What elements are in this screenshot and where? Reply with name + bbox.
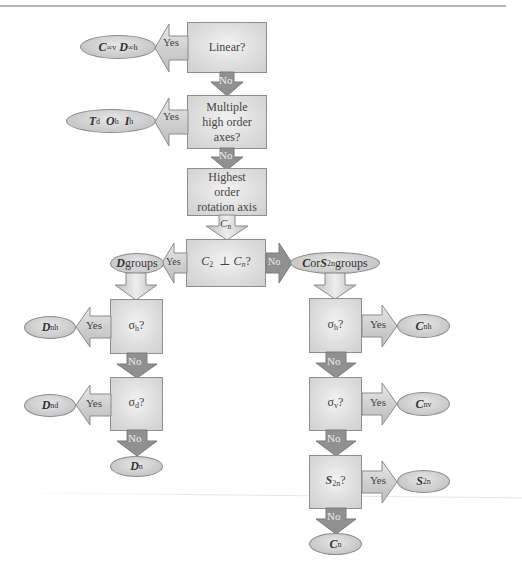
edge-label-no: No <box>268 256 280 267</box>
node-right-sigma-v: σv? <box>309 377 362 431</box>
edge-label-cn: Cn <box>220 217 231 231</box>
edge-label-yes: Yes <box>370 396 386 408</box>
arrow-cgroups-down <box>314 273 356 299</box>
edge-label-yes: Yes <box>370 474 386 486</box>
top-rule <box>0 5 506 7</box>
node-linear: Linear? <box>187 22 267 73</box>
edge-label-yes: Yes <box>86 319 102 331</box>
edge-label-no: No <box>219 149 232 161</box>
result-dnd: Dnd <box>24 394 76 417</box>
node-highest-axis: Highest order rotation axis <box>187 168 267 216</box>
node-c2-perp-cn: C2 ⊥ Cn? <box>186 239 266 287</box>
edge-label-yes: Yes <box>163 110 179 122</box>
edge-label-no: No <box>128 432 141 444</box>
result-d-groups: D groups <box>110 253 164 274</box>
node-left-sigma-d: σd? <box>110 377 163 431</box>
result-dn: Dn <box>110 456 163 477</box>
node-linear-label: Linear? <box>209 40 246 55</box>
node-right-sigma-h: σh? <box>309 298 362 353</box>
edge-label-yes: Yes <box>86 397 102 409</box>
node-multiple-axes: Multiple high order axes? <box>187 95 267 149</box>
page-fold-line <box>0 492 522 498</box>
edge-label-no: No <box>327 432 340 444</box>
edge-label-yes: Yes <box>370 318 386 330</box>
edge-label-yes: Yes <box>166 256 181 267</box>
arrow-dgroups-down <box>115 273 157 300</box>
result-cnh: Cnh <box>397 314 450 338</box>
result-cnv: Cnv <box>397 392 450 416</box>
result-dnh: Dnh <box>24 316 76 339</box>
arrow-multiple-yes <box>155 98 188 146</box>
edge-label-no: No <box>327 355 340 367</box>
result-s2n: S2n <box>397 470 450 493</box>
node-left-sigma-h: σh? <box>110 299 163 354</box>
result-cn: Cn <box>309 533 362 555</box>
result-cinfv-dinfh: C∞v D∞h <box>80 35 156 59</box>
result-td-oh-ih: Td Oh Ih <box>66 109 156 133</box>
arrow-linear-yes <box>155 24 188 72</box>
edge-label-no: No <box>219 74 232 86</box>
node-right-s2n: S2n? <box>309 455 362 509</box>
edge-label-yes: Yes <box>163 36 179 48</box>
result-c-or-s2n-groups: C or S2n groups <box>290 252 380 274</box>
edge-label-no: No <box>327 510 340 522</box>
edge-label-no: No <box>128 355 141 367</box>
